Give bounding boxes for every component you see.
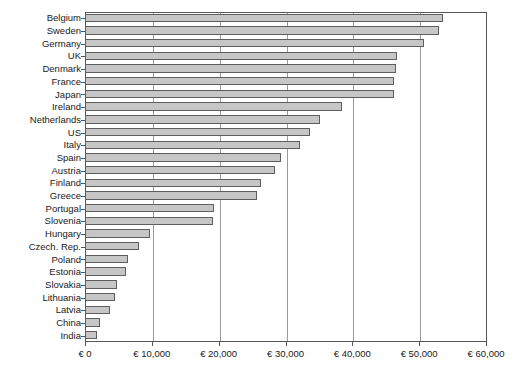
category-tick xyxy=(81,82,85,83)
category-label: Hungary xyxy=(0,228,81,239)
bar xyxy=(85,90,394,98)
bar-row xyxy=(85,215,487,228)
bar xyxy=(85,64,396,72)
value-tick xyxy=(286,342,287,346)
bar xyxy=(85,267,126,275)
category-label: UK xyxy=(0,50,81,61)
category-tick xyxy=(81,259,85,260)
bar-row xyxy=(85,88,487,101)
bar-row xyxy=(85,266,487,279)
bar-row xyxy=(85,63,487,76)
category-label: Sweden xyxy=(0,25,81,36)
bar xyxy=(85,331,97,339)
bar-row xyxy=(85,164,487,177)
bar-row xyxy=(85,177,487,190)
category-label: Netherlands xyxy=(0,114,81,125)
value-tick xyxy=(486,342,487,346)
bar xyxy=(85,115,320,123)
bar-row xyxy=(85,37,487,50)
bar-row xyxy=(85,139,487,152)
category-label: Finland xyxy=(0,177,81,188)
bar-series xyxy=(85,12,487,342)
value-tick-label: € 40,000 xyxy=(334,348,371,360)
category-tick xyxy=(81,196,85,197)
category-tick xyxy=(81,323,85,324)
value-tick xyxy=(152,342,153,346)
category-tick xyxy=(81,18,85,19)
category-label: Austria xyxy=(0,165,81,176)
bar-row xyxy=(85,279,487,292)
category-label: Lithuania xyxy=(0,292,81,303)
category-label: Belgium xyxy=(0,12,81,23)
category-tick xyxy=(81,94,85,95)
bar xyxy=(85,39,424,47)
value-tick-label: € 60,000 xyxy=(468,348,505,360)
category-tick xyxy=(81,285,85,286)
category-tick xyxy=(81,298,85,299)
bar xyxy=(85,293,115,301)
bar xyxy=(85,217,213,225)
bar xyxy=(85,204,214,212)
bar-row xyxy=(85,228,487,241)
category-label: Czech. Rep. xyxy=(0,241,81,252)
bar-row xyxy=(85,75,487,88)
bar xyxy=(85,166,275,174)
value-tick-label: € 10,000 xyxy=(133,348,170,360)
category-label: Greece xyxy=(0,190,81,201)
bar xyxy=(85,77,394,85)
category-label: US xyxy=(0,127,81,138)
bar-row xyxy=(85,317,487,330)
category-label: Poland xyxy=(0,254,81,265)
bar-row xyxy=(85,101,487,114)
category-label: China xyxy=(0,317,81,328)
bar xyxy=(85,52,397,60)
bar-row xyxy=(85,25,487,38)
category-label: Slovenia xyxy=(0,215,81,226)
bar-row xyxy=(85,152,487,165)
bar-row xyxy=(85,190,487,203)
category-tick xyxy=(81,209,85,210)
category-label: Ireland xyxy=(0,101,81,112)
category-tick xyxy=(81,221,85,222)
value-tick-label: € 0 xyxy=(78,348,91,360)
value-tick-label: € 20,000 xyxy=(200,348,237,360)
bar-row xyxy=(85,291,487,304)
category-tick xyxy=(81,31,85,32)
value-tick xyxy=(419,342,420,346)
value-tick xyxy=(219,342,220,346)
category-tick xyxy=(81,272,85,273)
category-label: Denmark xyxy=(0,63,81,74)
category-label: Portugal xyxy=(0,203,81,214)
category-label: Slovakia xyxy=(0,279,81,290)
bar xyxy=(85,128,310,136)
category-label: Latvia xyxy=(0,304,81,315)
category-label: Estonia xyxy=(0,266,81,277)
bar xyxy=(85,306,110,314)
bar-row xyxy=(85,304,487,317)
bar xyxy=(85,280,117,288)
value-tick xyxy=(352,342,353,346)
bar xyxy=(85,229,150,237)
bar xyxy=(85,153,281,161)
bar-row xyxy=(85,202,487,215)
category-tick xyxy=(81,336,85,337)
category-tick xyxy=(81,171,85,172)
category-tick xyxy=(81,56,85,57)
bar-row xyxy=(85,240,487,253)
bar xyxy=(85,255,128,263)
category-tick xyxy=(81,107,85,108)
category-tick xyxy=(81,145,85,146)
value-axis-labels: € 0€ 10,000€ 20,000€ 30,000€ 40,000€ 50,… xyxy=(0,348,526,364)
bar xyxy=(85,191,257,199)
category-label: France xyxy=(0,76,81,87)
bar xyxy=(85,26,439,34)
bar-row xyxy=(85,12,487,25)
category-label: Italy xyxy=(0,139,81,150)
category-label: India xyxy=(0,330,81,341)
bar xyxy=(85,179,261,187)
bar-row xyxy=(85,50,487,63)
category-tick xyxy=(81,69,85,70)
category-axis-labels: BelgiumSwedenGermanyUKDenmarkFranceJapan… xyxy=(0,12,81,342)
category-tick xyxy=(81,183,85,184)
bar xyxy=(85,14,443,22)
